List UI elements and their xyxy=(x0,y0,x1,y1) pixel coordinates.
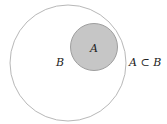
relation-label: A ⊂ B xyxy=(128,56,161,69)
venn-diagram: A B A ⊂ B xyxy=(0,0,167,124)
set-a-label: A xyxy=(89,42,98,55)
set-b-label: B xyxy=(55,56,64,69)
